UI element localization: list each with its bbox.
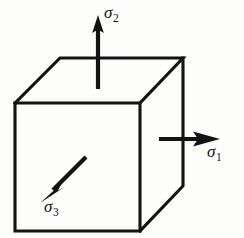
sigma-2-subscript: 2 [112, 12, 118, 24]
sigma-3-subscript: 3 [52, 206, 58, 218]
sigma-3-label: σ3 [44, 198, 59, 218]
cube-diagram-canvas [0, 0, 244, 238]
sigma-2-label: σ2 [104, 4, 119, 24]
sigma-1-subscript: 1 [215, 151, 221, 163]
stress-cube-figure: σ2 σ1 σ3 [0, 0, 244, 238]
sigma-1-label: σ1 [207, 143, 222, 163]
